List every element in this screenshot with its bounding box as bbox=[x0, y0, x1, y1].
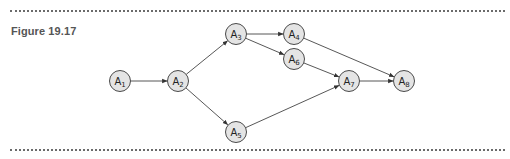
node-a3: A3 bbox=[226, 24, 247, 45]
node-a6: A6 bbox=[284, 49, 305, 70]
node-a2: A2 bbox=[168, 71, 189, 92]
node-a1: A1 bbox=[110, 71, 131, 92]
node-a4: A4 bbox=[284, 24, 305, 45]
node-a5: A5 bbox=[226, 122, 247, 143]
edge-a2-a3 bbox=[186, 41, 227, 75]
edge-a3-a6 bbox=[246, 38, 284, 54]
node-a7: A7 bbox=[339, 71, 360, 92]
node-a8: A8 bbox=[394, 71, 415, 92]
bottom-rule bbox=[10, 149, 505, 151]
edge-a5-a7 bbox=[246, 86, 339, 128]
edge-a2-a5 bbox=[186, 88, 228, 125]
edge-a6-a7 bbox=[304, 63, 339, 77]
nodes-group: A1A2A3A4A5A6A7A8 bbox=[110, 24, 415, 143]
precedence-diagram: A1A2A3A4A5A6A7A8 bbox=[0, 0, 510, 159]
